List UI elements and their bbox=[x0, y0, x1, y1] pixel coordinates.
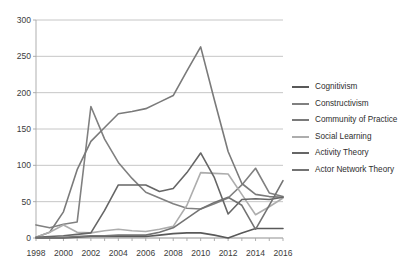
legend-item[interactable]: Cognitivism bbox=[292, 79, 401, 96]
x-tick-label: 2000 bbox=[54, 248, 73, 258]
x-tick-label: 1998 bbox=[27, 248, 46, 258]
legend-item-label: Actor Network Theory bbox=[315, 166, 394, 174]
legend-item-label: Activity Theory bbox=[315, 149, 369, 157]
y-tick-label: 250 bbox=[17, 51, 31, 61]
y-tick-label: 50 bbox=[22, 197, 32, 207]
x-tick-label: 2004 bbox=[109, 248, 128, 258]
legend-item-label: Cognitivism bbox=[315, 83, 357, 91]
legend-item-label: Community of Practice bbox=[315, 116, 397, 124]
legend-swatch-icon bbox=[292, 119, 309, 121]
legend-swatch-icon bbox=[292, 169, 309, 171]
series-line bbox=[36, 47, 283, 237]
y-tick-label: 150 bbox=[17, 124, 31, 134]
legend-item[interactable]: Community of Practice bbox=[292, 112, 401, 129]
x-tick-label: 2002 bbox=[81, 248, 100, 258]
x-tick-label: 2012 bbox=[219, 248, 238, 258]
y-tick-label: 200 bbox=[17, 88, 31, 98]
legend-item[interactable]: Actor Network Theory bbox=[292, 162, 401, 179]
legend-item[interactable]: Constructivism bbox=[292, 96, 401, 113]
x-tick-label: 2010 bbox=[191, 248, 210, 258]
legend-item[interactable]: Activity Theory bbox=[292, 145, 401, 162]
y-tick-label: 100 bbox=[17, 160, 31, 170]
legend-swatch-icon bbox=[292, 103, 309, 105]
line-chart: 0501001502002503001998200020022004200620… bbox=[0, 0, 401, 274]
x-tick-label: 2016 bbox=[274, 248, 293, 258]
chart-legend: CognitivismConstructivismCommunity of Pr… bbox=[292, 79, 401, 178]
series-line bbox=[36, 106, 283, 227]
legend-swatch-icon bbox=[292, 152, 309, 154]
legend-swatch-icon bbox=[292, 86, 309, 88]
legend-item-label: Constructivism bbox=[315, 100, 369, 108]
x-tick-label: 2014 bbox=[246, 248, 265, 258]
legend-item[interactable]: Social Learning bbox=[292, 129, 401, 146]
y-tick-label: 300 bbox=[17, 15, 31, 25]
y-tick-label: 0 bbox=[26, 233, 31, 243]
legend-swatch-icon bbox=[292, 136, 309, 138]
x-tick-label: 2008 bbox=[164, 248, 183, 258]
legend-item-label: Social Learning bbox=[315, 133, 371, 141]
x-tick-label: 2006 bbox=[136, 248, 155, 258]
